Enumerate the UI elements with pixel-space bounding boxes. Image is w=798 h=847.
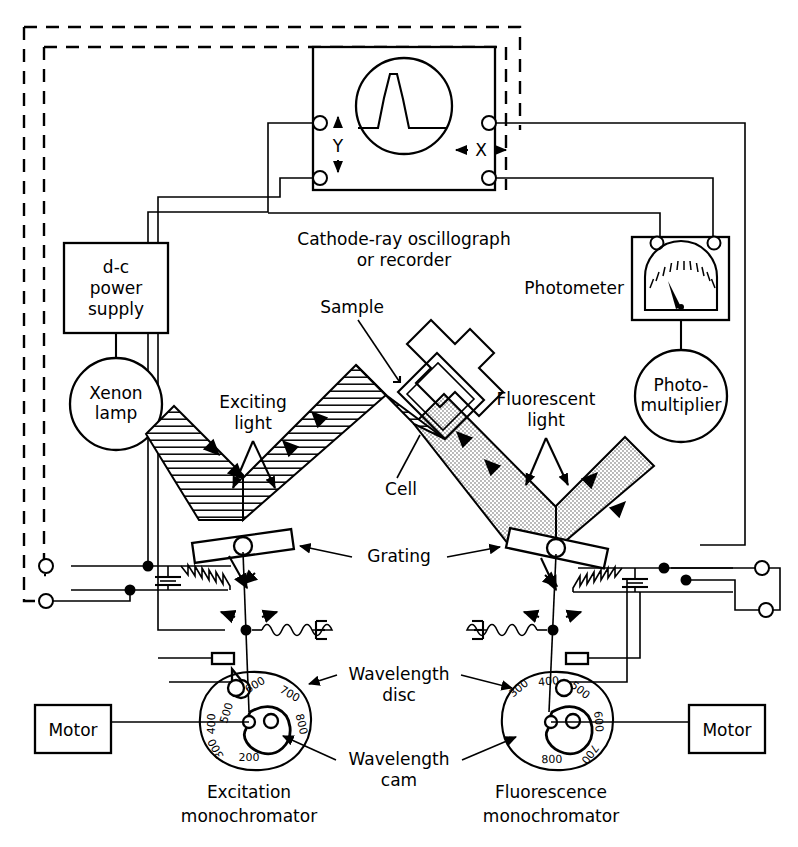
enclosure-terminal-left-lower[interactable] (39, 594, 53, 608)
wavelength-disc-line1: Wavelength (349, 664, 450, 684)
dial-right-tick-700: 700 (578, 742, 601, 767)
exciting-light-line2: light (234, 413, 272, 433)
figure-canvas: Y X Cathode-ray oscillograph or recorder (0, 0, 798, 847)
oscillograph-caption-line2: or recorder (357, 250, 452, 270)
cro-terminal-x1[interactable] (482, 116, 496, 130)
wavelength-disc-line2: disc (382, 685, 416, 705)
dial-right-tick-800: 800 (541, 753, 562, 767)
fluorescence-mono-caption-line2: monochromator (483, 806, 619, 826)
fluorescent-light-beam: Fluorescent light (414, 389, 654, 549)
power-supply-line2: power (90, 278, 143, 298)
excitation-monochromator-assembly: 500 400 300 200 600 700 800 Motor Excita… (35, 529, 332, 826)
cro-axis-y-label: Y (332, 136, 344, 156)
spectrofluorometer-schematic: Y X Cathode-ray oscillograph or recorder (0, 0, 798, 847)
cell-label: Cell (385, 479, 417, 499)
oscillograph-caption-line1: Cathode-ray oscillograph (297, 229, 510, 249)
battery-right (622, 568, 648, 592)
enclosure-terminal-right-upper[interactable] (755, 561, 769, 575)
exciting-light-line1: Exciting (219, 392, 287, 412)
wavelength-disc-callout: Wavelength disc (309, 664, 512, 705)
wavelength-cam-callout: Wavelength cam (283, 736, 516, 790)
grating-callout: Grating (300, 546, 500, 566)
excitation-mono-caption-line1: Excitation (207, 782, 291, 802)
wavelength-cam-line2: cam (381, 770, 417, 790)
dial-left-tick-700: 700 (277, 683, 302, 705)
dial-left-tick-800: 800 (293, 712, 311, 736)
contact-right[interactable] (566, 653, 588, 664)
enclosure-terminal-right-lower[interactable] (759, 603, 773, 617)
photometer-unit: Photometer (524, 237, 729, 321)
fluorescent-light-line2: light (527, 410, 565, 430)
xenon-lamp-line1: Xenon (89, 383, 142, 403)
sample-label: Sample (320, 297, 384, 317)
battery-left (155, 566, 181, 590)
grating-label: Grating (367, 546, 431, 566)
dial-left-tick-600: 600 (243, 674, 268, 696)
xenon-lamp-line2: lamp (95, 403, 138, 423)
power-supply-line1: d-c (103, 257, 129, 277)
photomultiplier-line2: multiplier (640, 395, 721, 415)
exciting-light-beam: Exciting light (146, 365, 386, 520)
wavelength-cam-line1: Wavelength (349, 749, 450, 769)
excitation-mono-caption-line2: monochromator (181, 806, 317, 826)
photomultiplier-unit: Photo- multiplier (635, 320, 727, 442)
cro-terminal-y2[interactable] (313, 171, 327, 185)
cro-terminal-y1[interactable] (313, 116, 327, 130)
dial-left-tick-400: 400 (205, 713, 219, 734)
dial-left-tick-300: 300 (205, 736, 226, 761)
contact-left[interactable] (212, 653, 234, 664)
photometer-label: Photometer (524, 278, 624, 298)
photometer-terminal-right[interactable] (708, 237, 721, 250)
photomultiplier-line1: Photo- (654, 375, 709, 395)
dial-left-tick-200: 200 (239, 751, 260, 764)
oscillograph-unit: Y X (313, 47, 506, 190)
dc-power-supply-unit: d-c power supply (64, 243, 168, 358)
cro-terminal-x2[interactable] (482, 171, 496, 185)
fluorescent-light-line1: Fluorescent (497, 389, 596, 409)
fluorescence-mono-caption-line1: Fluorescence (495, 782, 607, 802)
power-supply-line3: supply (88, 299, 144, 319)
enclosure-terminal-left-upper[interactable] (39, 559, 53, 573)
dial-right-tick-400: 400 (538, 674, 560, 689)
fluorescence-monochromator-assembly: 300 400 500 600 700 800 Motor Fluorescen… (467, 528, 780, 826)
motor-right-label: Motor (702, 720, 751, 740)
motor-left-label: Motor (48, 720, 97, 740)
cro-axis-x-label: X (475, 140, 487, 160)
